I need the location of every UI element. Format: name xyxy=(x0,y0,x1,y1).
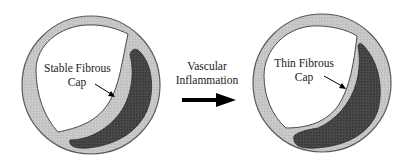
transition-label: Vascular Inflammation xyxy=(172,59,242,87)
stable-cap-label-line2: Cap xyxy=(44,75,110,89)
transition-label-line1: Vascular xyxy=(172,59,242,73)
stable-cap-label: Stable Fibrous Cap xyxy=(44,61,110,89)
stable-cap-label-line1: Stable Fibrous xyxy=(44,61,110,75)
transition-label-line2: Inflammation xyxy=(172,73,242,87)
thin-cap-label-line1: Thin Fibrous xyxy=(274,56,334,70)
thin-cap-label: Thin Fibrous Cap xyxy=(274,56,334,84)
thin-cap-label-line2: Cap xyxy=(274,70,334,84)
progression-arrow xyxy=(182,93,236,107)
